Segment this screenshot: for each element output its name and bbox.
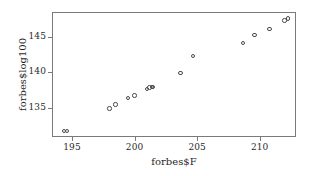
data-point: [286, 16, 290, 20]
scatter-plot-figure: 195200205210 135140145 forbes$F forbes$l…: [0, 0, 311, 176]
data-point: [191, 54, 195, 58]
x-tick: [260, 137, 261, 141]
x-tick: [135, 137, 136, 141]
y-axis-title: forbes$log100: [17, 12, 29, 137]
x-tick-label: 195: [57, 142, 87, 152]
x-axis-title: forbes$F: [52, 156, 296, 167]
x-tick: [197, 137, 198, 141]
x-tick-label: 205: [182, 142, 212, 152]
data-point: [65, 129, 69, 133]
data-point: [252, 33, 256, 37]
x-tick-label: 200: [120, 142, 150, 152]
x-tick: [72, 137, 73, 141]
data-point: [267, 27, 271, 31]
data-point: [107, 106, 111, 110]
y-tick: [48, 108, 52, 109]
data-point: [132, 93, 136, 97]
data-point: [178, 71, 182, 75]
y-tick: [48, 37, 52, 38]
y-tick: [48, 72, 52, 73]
data-point: [113, 102, 117, 106]
data-point: [126, 96, 130, 100]
data-points-layer: [53, 13, 295, 136]
data-point: [241, 41, 245, 45]
plot-area-frame: [52, 12, 296, 137]
x-tick-label: 210: [245, 142, 275, 152]
